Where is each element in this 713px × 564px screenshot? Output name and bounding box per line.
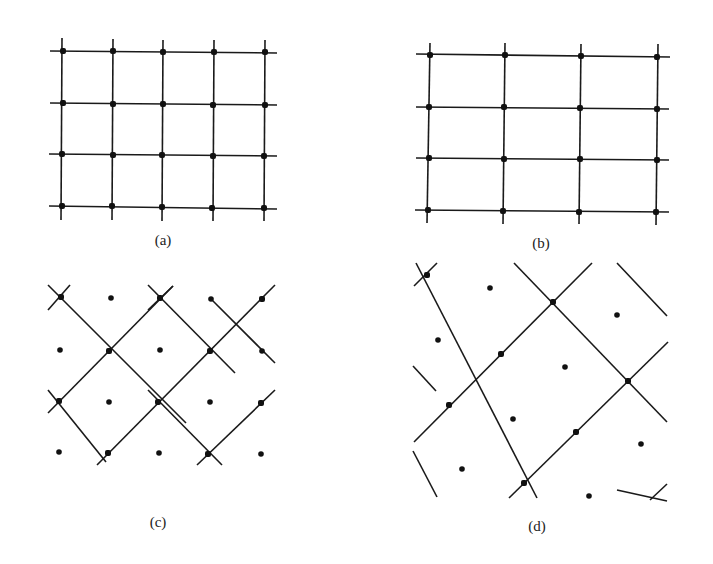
lattice-line bbox=[112, 39, 113, 220]
lattice-line bbox=[514, 263, 667, 422]
center-dot bbox=[108, 295, 114, 301]
lattice-point bbox=[500, 208, 506, 214]
lattice-point bbox=[160, 101, 166, 107]
lattice-point bbox=[425, 207, 431, 213]
lattice-point bbox=[59, 203, 65, 209]
lattice-point bbox=[258, 400, 264, 406]
lattice-point bbox=[498, 351, 504, 357]
lattice-point bbox=[211, 49, 217, 55]
lattice-line bbox=[617, 263, 667, 316]
lattice-point bbox=[205, 451, 211, 457]
lattice-point bbox=[259, 296, 265, 302]
lattice-point bbox=[653, 209, 659, 215]
center-dot bbox=[207, 399, 213, 405]
panel-b: (b) bbox=[415, 43, 670, 252]
lattice-point bbox=[155, 399, 161, 405]
lattice-point bbox=[577, 105, 583, 111]
panel-a-label: (a) bbox=[155, 232, 172, 249]
center-dot bbox=[208, 296, 214, 302]
panel-a-lattice-lines bbox=[49, 38, 277, 221]
lattice-line bbox=[656, 44, 658, 225]
panel-d-lattice-points bbox=[424, 272, 631, 486]
lattice-point bbox=[424, 272, 430, 278]
panel-d-center-dots bbox=[435, 285, 644, 499]
lattice-point bbox=[446, 402, 452, 408]
lattice-line bbox=[413, 451, 437, 497]
lattice-point bbox=[159, 152, 165, 158]
lattice-line bbox=[48, 285, 186, 423]
panel-d: (d) bbox=[413, 263, 668, 535]
center-dot bbox=[487, 285, 493, 291]
lattice-point bbox=[109, 203, 115, 209]
lattice-point bbox=[654, 157, 660, 163]
lattice-line bbox=[213, 40, 214, 221]
lattice-point bbox=[262, 102, 268, 108]
center-dot bbox=[57, 347, 63, 353]
lattice-line bbox=[415, 210, 669, 212]
lattice-point bbox=[550, 299, 556, 305]
lattice-point bbox=[262, 49, 268, 55]
lattice-point bbox=[110, 48, 116, 54]
lattice-point bbox=[625, 378, 631, 384]
lattice-point bbox=[60, 48, 66, 54]
lattice-line bbox=[162, 40, 163, 221]
lattice-point bbox=[502, 52, 508, 58]
lattice-point bbox=[654, 106, 660, 112]
center-dot bbox=[259, 348, 265, 354]
lattice-line bbox=[97, 285, 275, 465]
lattice-point bbox=[60, 100, 66, 106]
lattice-point bbox=[426, 155, 432, 161]
panel-a: (a) bbox=[49, 38, 277, 249]
center-dot bbox=[157, 347, 163, 353]
lattice-point bbox=[426, 104, 432, 110]
lattice-line bbox=[210, 298, 275, 363]
lattice-point bbox=[210, 102, 216, 108]
center-dot bbox=[156, 450, 162, 456]
lattice-point bbox=[210, 153, 216, 159]
center-dot bbox=[459, 466, 465, 472]
center-dot bbox=[562, 364, 568, 370]
lattice-point bbox=[207, 348, 213, 354]
lattice-line bbox=[579, 44, 581, 224]
lattice-line bbox=[416, 158, 669, 160]
panel-c-lattice-points bbox=[56, 294, 265, 457]
panel-d-label: (d) bbox=[528, 518, 546, 535]
center-dot bbox=[258, 451, 264, 457]
lattice-line bbox=[650, 484, 667, 500]
lattice-point bbox=[578, 53, 584, 59]
lattice-point bbox=[56, 398, 62, 404]
lattice-point bbox=[157, 295, 163, 301]
lattice-line bbox=[509, 342, 668, 498]
lattice-figure: (a) (b) (c) (d) bbox=[0, 0, 713, 564]
lattice-point bbox=[521, 480, 527, 486]
center-dot bbox=[435, 337, 441, 343]
panel-c-lattice-lines bbox=[48, 285, 275, 465]
lattice-point bbox=[427, 52, 433, 58]
lattice-line bbox=[427, 43, 430, 223]
lattice-point bbox=[654, 54, 660, 60]
panel-b-label: (b) bbox=[532, 235, 550, 252]
lattice-point bbox=[577, 156, 583, 162]
lattice-point bbox=[160, 49, 166, 55]
lattice-point bbox=[261, 205, 267, 211]
panel-c-center-dots bbox=[56, 295, 265, 457]
lattice-point bbox=[106, 348, 112, 354]
lattice-point bbox=[209, 205, 215, 211]
lattice-line bbox=[416, 107, 669, 109]
lattice-line bbox=[416, 263, 537, 498]
lattice-line bbox=[416, 54, 670, 57]
lattice-line bbox=[503, 43, 505, 224]
center-dot bbox=[510, 416, 516, 422]
lattice-point bbox=[105, 450, 111, 456]
panel-c-label: (c) bbox=[150, 514, 167, 531]
lattice-point bbox=[159, 204, 165, 210]
lattice-point bbox=[110, 152, 116, 158]
lattice-point bbox=[59, 151, 65, 157]
center-dot bbox=[56, 449, 62, 455]
center-dot bbox=[614, 312, 620, 318]
lattice-point bbox=[261, 153, 267, 159]
center-dot bbox=[106, 399, 112, 405]
lattice-point bbox=[110, 101, 116, 107]
panel-b-lattice-points bbox=[425, 52, 660, 215]
lattice-point bbox=[573, 429, 579, 435]
